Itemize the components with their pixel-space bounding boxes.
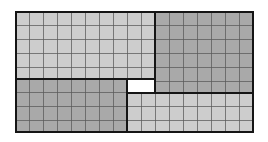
divider-horizontal-right bbox=[127, 92, 254, 94]
outer-border bbox=[15, 11, 254, 133]
tiled-rectangle-diagram bbox=[0, 0, 268, 142]
divider-vertical-top bbox=[154, 11, 156, 93]
divider-vertical-bottom bbox=[126, 78, 128, 133]
divider-horizontal-left bbox=[15, 78, 156, 80]
